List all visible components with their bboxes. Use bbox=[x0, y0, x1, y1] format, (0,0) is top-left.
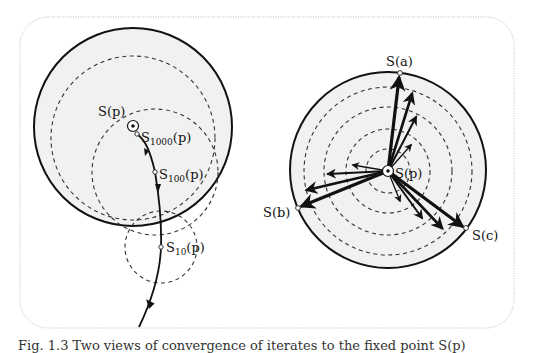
s10-point bbox=[159, 245, 163, 249]
fixed-point-dot bbox=[131, 124, 135, 128]
s100-point bbox=[153, 170, 157, 174]
center-fixed-point-dot bbox=[386, 169, 390, 173]
label-a: S(a) bbox=[386, 54, 413, 69]
point-b bbox=[296, 206, 301, 211]
label-s10: S10(p) bbox=[166, 240, 205, 257]
s1000-point bbox=[135, 132, 139, 136]
label-fixed-point: S(p) bbox=[98, 104, 125, 119]
label-c: S(c) bbox=[472, 228, 498, 243]
point-a bbox=[398, 71, 403, 76]
label-center: S(p) bbox=[395, 166, 422, 181]
label-b: S(b) bbox=[263, 205, 290, 220]
point-c bbox=[464, 226, 469, 231]
figure-caption: Fig. 1.3 Two views of convergence of ite… bbox=[18, 338, 466, 353]
